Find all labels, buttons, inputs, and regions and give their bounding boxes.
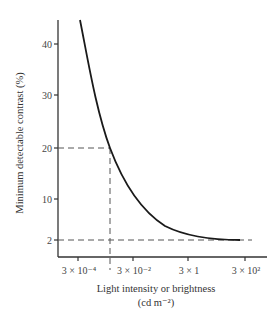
contrast-chart: 40 30 20 10 2 3 × 10⁻⁴ 3 × 10⁻² 3 × 1 3 … [0,0,280,326]
x-tick-3e-2: 3 × 10⁻² [117,265,151,276]
y-tick-20: 20 [42,143,52,154]
x-axis-title: Light intensity or brightness [97,283,216,294]
x-tick-3e2: 3 × 10² [232,265,261,276]
x-tick-3: 3 × 1 [179,265,200,276]
y-tick-10: 10 [42,194,52,205]
x-tick-labels: 3 × 10⁻⁴ 3 × 10⁻² 3 × 1 3 × 10² [62,265,261,276]
y-tick-40: 40 [42,39,52,50]
y-tick-2: 2 [47,235,52,246]
x-tick-3e-4: 3 × 10⁻⁴ [62,265,97,276]
y-axis-title: Minimum detectable contrast (%) [14,72,26,214]
y-tick-labels: 40 30 20 10 2 [42,39,52,246]
y-tick-30: 30 [42,90,52,101]
reference-lines [58,148,252,270]
x-axis-units: (cd m⁻²) [138,297,175,309]
contrast-curve [80,20,240,240]
